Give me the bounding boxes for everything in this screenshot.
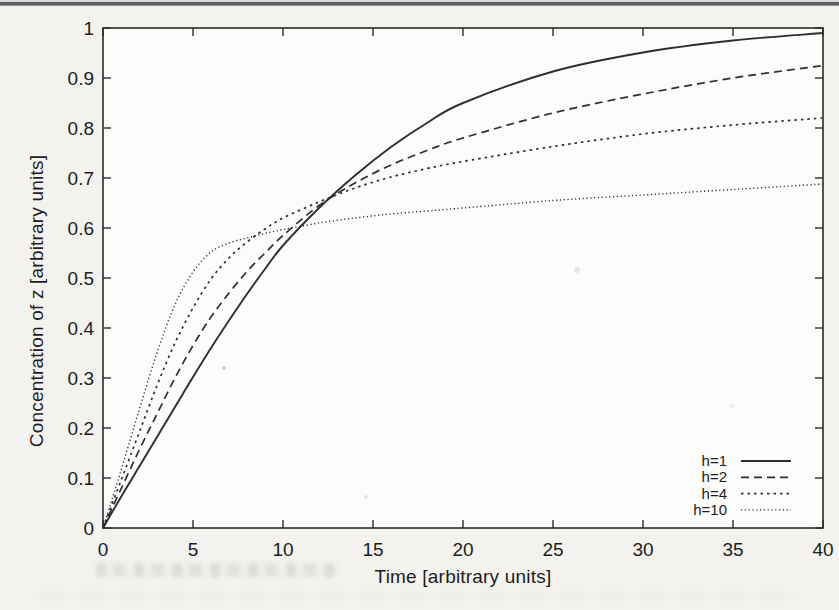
x-tick-label: 0 — [98, 539, 109, 560]
line-chart-canvas: 051015202530354000.10.20.30.40.50.60.70.… — [0, 0, 839, 610]
x-tick-label: 20 — [452, 539, 473, 560]
y-tick-label: 0.5 — [68, 268, 94, 289]
x-tick-label: 30 — [632, 539, 653, 560]
scanned-book-page: 051015202530354000.10.20.30.40.50.60.70.… — [0, 0, 839, 610]
legend-label-h4: h=4 — [702, 485, 727, 502]
y-tick-label: 0.6 — [68, 218, 94, 239]
y-tick-label: 0.7 — [68, 168, 94, 189]
page-bleedthrough-smudge-faint — [40, 592, 800, 600]
y-tick-label: 0.8 — [68, 118, 94, 139]
scan-speck — [222, 366, 226, 370]
y-tick-label: 0.2 — [68, 418, 94, 439]
y-tick-label: 0.4 — [68, 318, 95, 339]
y-tick-label: 0.3 — [68, 368, 94, 389]
page-bleedthrough-smudge — [96, 563, 338, 577]
y-tick-label: 0.1 — [68, 468, 94, 489]
x-tick-label: 40 — [812, 539, 833, 560]
legend-label-h1: h=1 — [702, 452, 727, 469]
x-tick-label: 15 — [362, 539, 383, 560]
x-tick-label: 10 — [272, 539, 293, 560]
y-tick-label: 0.9 — [68, 68, 94, 89]
x-tick-label: 25 — [542, 539, 563, 560]
y-tick-label: 0 — [83, 518, 94, 539]
x-tick-label: 5 — [188, 539, 199, 560]
figure: 051015202530354000.10.20.30.40.50.60.70.… — [0, 0, 839, 610]
y-axis-title: Concentration of z [arbitrary units] — [26, 101, 48, 501]
x-tick-label: 35 — [722, 539, 743, 560]
legend-label-h10: h=10 — [693, 501, 727, 518]
legend-label-h2: h=2 — [702, 468, 727, 485]
y-tick-label: 1 — [83, 18, 94, 39]
